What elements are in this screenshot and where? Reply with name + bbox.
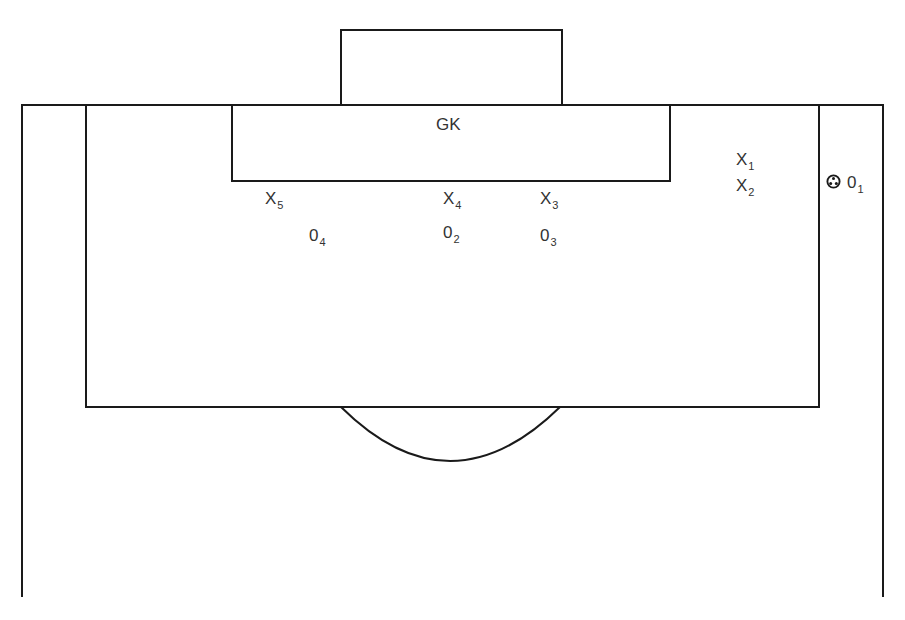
penalty-area (86, 105, 819, 407)
defender-o4: 04 (309, 227, 326, 244)
football-icon (826, 174, 841, 189)
attacker-x4: X4 (443, 190, 461, 207)
defender-o3: 03 (540, 227, 557, 244)
attacker-x5: X5 (265, 190, 283, 207)
attacker-x1: X1 (736, 151, 754, 168)
pitch-diagram (0, 0, 905, 620)
defender-o2: 02 (443, 224, 460, 241)
goal (341, 30, 562, 105)
goalkeeper-label: GK (436, 116, 461, 133)
penalty-arc (341, 407, 560, 461)
attacker-x3: X3 (540, 190, 558, 207)
defender-o1-with-ball: 01 (826, 174, 864, 191)
attacker-x2: X2 (736, 177, 754, 194)
